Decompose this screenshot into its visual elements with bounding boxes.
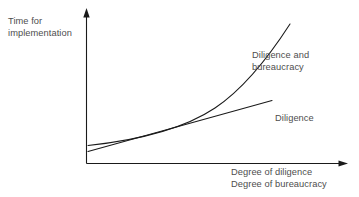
x-axis-label-line1: Degree of diligence <box>231 167 327 179</box>
curve-label-diligence-and-bureaucracy: Diligence and bureaucracy <box>252 50 309 73</box>
curve-diligence-and-bureaucracy <box>88 24 290 146</box>
chart-container: Time for implementation Degree of dilige… <box>0 0 359 197</box>
y-axis-label-line2: implementation <box>8 28 72 40</box>
curve-diligence <box>88 101 272 152</box>
curve-label-lower-line1: Diligence <box>275 113 314 125</box>
y-axis-arrow-icon <box>83 8 89 18</box>
x-axis-label: Degree of diligence Degree of bureaucrac… <box>231 167 327 190</box>
curve-label-upper-line2: bureaucracy <box>252 62 309 74</box>
curve-label-diligence: Diligence <box>275 113 314 125</box>
y-axis-label-line1: Time for <box>8 16 72 28</box>
x-axis-arrow-icon <box>339 160 349 166</box>
x-axis-label-line2: Degree of bureaucracy <box>231 179 327 191</box>
curve-label-upper-line1: Diligence and <box>252 50 309 62</box>
y-axis-label: Time for implementation <box>8 16 72 39</box>
